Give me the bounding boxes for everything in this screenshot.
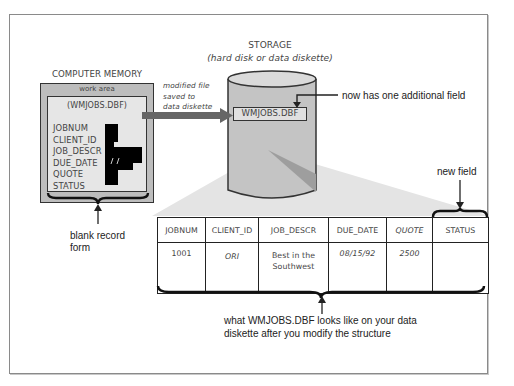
memory-field-list: JOBNUM CLIENT_ID JOB_DESCR DUE_DATE QUOT…	[53, 123, 102, 193]
col-header-status: STATUS	[433, 218, 489, 243]
new-field-arrow-icon	[430, 180, 490, 220]
memory-up-arrow-icon	[93, 204, 103, 224]
storage-cylinder-icon	[224, 68, 320, 208]
new-field-label: new field	[437, 166, 476, 177]
storage-subtitle: (hard disk or data diskette)	[200, 53, 340, 63]
memory-brace-caption: blank record form	[70, 230, 125, 254]
field-due-date: DUE_DATE	[53, 158, 102, 170]
table-header-row: JOBNUM CLIENT_ID JOB_DESCR DUE_DATE QUOT…	[158, 218, 489, 243]
col-header-job-descr: JOB_DESCR	[259, 218, 329, 243]
memory-file-label: (WMJOBS.DBF)	[47, 101, 147, 110]
bottom-caption: what WMJOBS.DBF looks like on your data …	[224, 314, 417, 340]
storage-title: STORAGE	[220, 40, 320, 50]
memory-title: COMPUTER MEMORY	[30, 69, 164, 79]
field-status: STATUS	[53, 181, 102, 193]
structure-table: JOBNUM CLIENT_ID JOB_DESCR DUE_DATE QUOT…	[157, 217, 489, 294]
field-client-id: CLIENT_ID	[53, 135, 102, 147]
blank-record-form-icon	[100, 120, 146, 190]
table-brace-icon	[155, 284, 491, 314]
storage-annotation: now has one additional field	[342, 90, 465, 101]
col-header-client-id: CLIENT_ID	[206, 218, 259, 243]
col-header-jobnum: JOBNUM	[158, 218, 206, 243]
annotation-arrow-icon	[280, 90, 340, 110]
col-header-quote: QUOTE	[387, 218, 433, 243]
work-area-label: work area	[40, 85, 154, 93]
field-quote: QUOTE	[53, 169, 102, 181]
transfer-arrow-icon	[142, 108, 234, 124]
field-jobnum: JOBNUM	[53, 123, 102, 135]
col-header-due-date: DUE_DATE	[329, 218, 387, 243]
field-job-descr: JOB_DESCR	[53, 146, 102, 158]
